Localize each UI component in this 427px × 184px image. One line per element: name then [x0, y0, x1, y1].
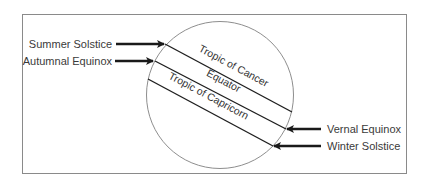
winter-solstice-label: Winter Solstice	[327, 140, 400, 152]
vernal-equinox-label: Vernal Equinox	[327, 123, 401, 135]
summer-solstice-label: Summer Solstice	[29, 38, 112, 50]
earth-seasons-diagram: Tropic of Cancer Equator Tropic of Capri…	[0, 0, 427, 184]
autumnal-equinox-label: Autumnal Equinox	[23, 55, 113, 67]
